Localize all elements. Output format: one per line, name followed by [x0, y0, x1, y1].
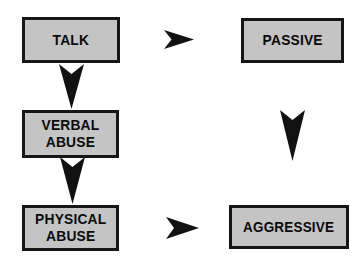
node-aggressive[interactable]: AGGRESSIVE: [229, 205, 349, 249]
arrow-down-icon-verbal-abuse-to-physical-abuse: [60, 157, 85, 204]
node-passive[interactable]: PASSIVE: [241, 18, 344, 63]
node-passive-label: PASSIVE: [262, 32, 322, 48]
diagram-canvas: TALK PASSIVE VERBAL ABUSE PHYSICAL ABUSE…: [0, 0, 364, 265]
node-physical-abuse[interactable]: PHYSICAL ABUSE: [22, 205, 119, 251]
node-physical-abuse-label: PHYSICAL ABUSE: [35, 211, 106, 245]
arrow-down-icon-talk-to-verbal-abuse: [59, 64, 84, 109]
node-talk[interactable]: TALK: [22, 17, 120, 63]
arrow-right-icon-talk-to-passive: [164, 30, 194, 49]
arrow-down-icon-passive-to-aggressive: [280, 110, 305, 161]
node-talk-label: TALK: [53, 32, 90, 48]
node-verbal-abuse-label: VERBAL ABUSE: [42, 117, 100, 151]
node-aggressive-label: AGGRESSIVE: [243, 219, 334, 235]
arrow-right-icon-physical-abuse-to-aggressive: [166, 217, 199, 239]
node-verbal-abuse[interactable]: VERBAL ABUSE: [22, 110, 119, 158]
